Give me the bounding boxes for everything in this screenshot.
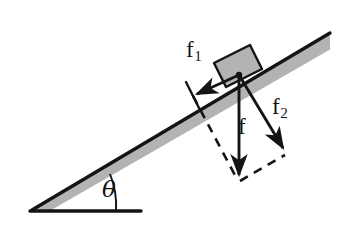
label-f1: f1: [186, 38, 201, 61]
vector-origin-point: [236, 72, 242, 78]
label-f2-subscript: 2: [280, 104, 288, 121]
incline-bottom-edge: [47, 49, 330, 212]
diagram-canvas: [0, 0, 342, 234]
label-f1-subscript: 1: [194, 47, 202, 64]
label-f2-base: f: [272, 94, 280, 119]
inclined-plane: [32, 33, 330, 212]
incline-top-edge: [32, 33, 330, 210]
label-f1-base: f: [186, 37, 194, 62]
dashed-line-f-to-f2: [240, 155, 285, 181]
label-f2: f2: [272, 95, 287, 118]
inclined-plane-force-diagram: f1 f2 f θ: [0, 0, 342, 234]
label-theta-angle: θ: [102, 178, 116, 201]
label-f: f: [238, 115, 246, 138]
